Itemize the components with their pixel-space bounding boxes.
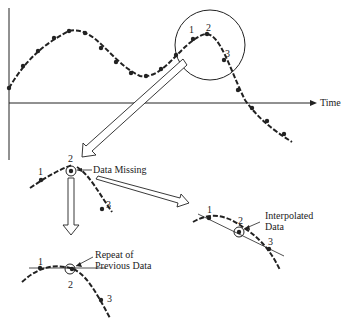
time-arrow-icon xyxy=(310,100,317,106)
point-label-1: 1 xyxy=(38,166,43,177)
repeat-label-1: Repeat of xyxy=(95,249,134,260)
point-label-1: 1 xyxy=(38,256,43,267)
interpolated-label-1: Interpolated xyxy=(265,210,313,221)
repeat-arrow xyxy=(63,178,79,235)
point-label-2: 2 xyxy=(206,22,211,33)
signal-curve xyxy=(9,30,292,142)
repeat-label-2: Previous Data xyxy=(95,260,151,271)
point-label-3: 3 xyxy=(225,48,230,59)
point-label-1: 1 xyxy=(207,204,212,215)
point-label-2: 2 xyxy=(68,153,73,164)
point-label-1: 1 xyxy=(189,24,194,35)
point-label-2: 2 xyxy=(68,279,73,290)
missing-label: Data Missing xyxy=(93,164,147,175)
point-label-2: 2 xyxy=(238,215,243,226)
zoom-circle xyxy=(175,10,245,80)
axis-label: Time xyxy=(320,97,341,108)
point-label-3: 3 xyxy=(107,293,112,304)
interpolated-label-2: Data xyxy=(265,221,284,232)
point-label-3: 3 xyxy=(268,236,273,247)
point-label-3: 3 xyxy=(106,199,111,210)
